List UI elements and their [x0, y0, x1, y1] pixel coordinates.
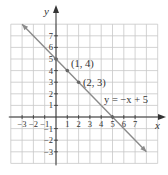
x-tick-label: −2 [29, 119, 38, 129]
point-label-2-3: (2, 3) [83, 77, 106, 89]
x-axis-label: x [154, 119, 160, 131]
function-line [22, 24, 146, 152]
data-point [66, 69, 70, 73]
coordinate-plane: −3−2−112345677654321−1−2−3 y x (1, 4) (2… [0, 0, 168, 175]
y-tick-label: −1 [44, 124, 53, 134]
y-tick-label: 7 [49, 31, 53, 41]
data-point [111, 115, 115, 119]
x-tick-label: 3 [88, 119, 92, 129]
y-axis-label: y [43, 5, 49, 17]
data-point [54, 57, 58, 61]
x-tick-label: 5 [110, 119, 114, 129]
equation-label: y = −x + 5 [104, 94, 148, 105]
point-label-1-4: (1, 4) [71, 58, 94, 70]
y-tick-label: 3 [49, 77, 53, 87]
y-axis-arrow-icon [53, 5, 59, 13]
x-tick-label: 4 [99, 119, 104, 129]
y-tick-label: 6 [49, 42, 53, 52]
x-tick-label: −3 [18, 119, 27, 129]
line-series [22, 24, 146, 152]
data-point [77, 80, 81, 84]
y-tick-label: 1 [49, 100, 53, 110]
x-tick-label: 7 [133, 119, 137, 129]
y-tick-label: −3 [44, 147, 53, 157]
y-tick-label: −2 [44, 135, 53, 145]
y-tick-label: 2 [49, 89, 53, 99]
x-tick-label: 1 [65, 119, 69, 129]
x-tick-label: 2 [76, 119, 80, 129]
